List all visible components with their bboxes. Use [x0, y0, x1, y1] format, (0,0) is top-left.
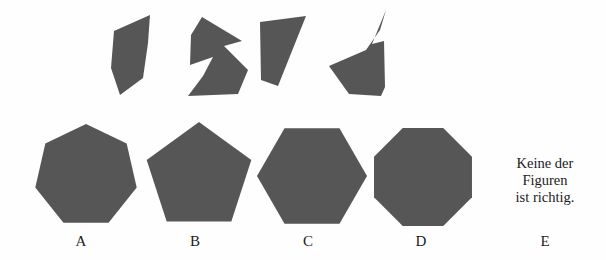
none-text-line-2: Figuren [487, 172, 603, 189]
pentagon[interactable] [147, 122, 252, 222]
option-label-a[interactable]: A [61, 234, 101, 249]
prompt-pieces-row [0, 0, 606, 260]
prompt-pieces-canvas [0, 0, 606, 260]
quadrilateral-sliver [111, 15, 150, 95]
prompt-piece-1 [111, 15, 150, 95]
option-label-c[interactable]: C [288, 234, 328, 249]
none-text-line-3: ist richtig. [487, 189, 603, 206]
option-shape-c[interactable] [257, 128, 367, 223]
right-trapezoid [260, 16, 306, 86]
octagon[interactable] [374, 128, 472, 226]
prompt-piece-3 [260, 16, 306, 86]
option-shape-b[interactable] [147, 122, 252, 222]
option-label-e[interactable]: E [525, 234, 565, 249]
zigzag-arrow [188, 17, 248, 96]
spiked-polygon [329, 10, 386, 96]
heptagon[interactable] [35, 124, 136, 223]
figure-assembly-item: A B C D E Keine der Figuren ist richtig. [0, 0, 606, 260]
prompt-piece-4 [329, 10, 386, 96]
option-shape-d[interactable] [374, 128, 472, 226]
option-label-d[interactable]: D [401, 234, 441, 249]
prompt-piece-2 [188, 17, 248, 96]
hexagon[interactable] [257, 128, 367, 223]
option-label-b[interactable]: B [175, 234, 215, 249]
option-shape-a[interactable] [35, 124, 136, 223]
none-of-the-figures-text[interactable]: Keine der Figuren ist richtig. [487, 155, 603, 206]
none-text-line-1: Keine der [487, 155, 603, 172]
